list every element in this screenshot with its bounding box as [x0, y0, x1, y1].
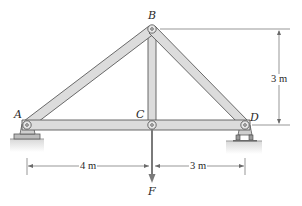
ground-right — [226, 141, 262, 154]
pin-b — [148, 25, 156, 33]
load-label-f: F — [148, 186, 156, 197]
member-bc — [148, 30, 156, 125]
joint-label-a: A — [14, 109, 22, 120]
pin-a — [23, 121, 31, 129]
ground-left — [10, 139, 44, 152]
span-dimension — [27, 158, 245, 175]
member-bd — [149, 26, 249, 128]
pin-d — [241, 121, 249, 129]
pin-c — [148, 121, 156, 129]
joint-label-c: C — [136, 109, 144, 120]
load-arrow-f — [149, 129, 156, 183]
height-dimension-label: 3 m — [270, 74, 288, 85]
span-left-label: 4 m — [79, 161, 97, 172]
truss-diagram: B A C D F 3 m 4 m 3 m — [0, 0, 302, 206]
joint-label-d: D — [250, 112, 259, 123]
joint-label-b: B — [148, 10, 156, 21]
member-ac-cd — [22, 120, 250, 130]
span-right-label: 3 m — [189, 161, 207, 172]
